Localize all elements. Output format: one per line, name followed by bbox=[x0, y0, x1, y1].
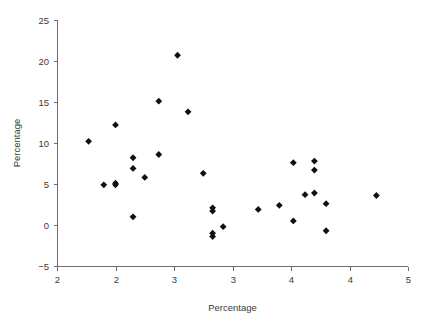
x-tick-label: 2 bbox=[114, 274, 119, 285]
y-tick-label: 15 bbox=[38, 97, 49, 108]
data-point-marker bbox=[220, 223, 227, 230]
y-tick-label: 0 bbox=[44, 220, 49, 231]
x-tick-label: 3 bbox=[231, 274, 236, 285]
data-point-marker bbox=[255, 206, 262, 213]
data-point-marker bbox=[130, 154, 137, 161]
data-point-marker bbox=[373, 192, 380, 199]
x-tick-label: 4 bbox=[289, 274, 294, 285]
data-point-marker bbox=[141, 174, 148, 181]
x-tick-label: 5 bbox=[406, 274, 411, 285]
data-point-marker bbox=[323, 200, 330, 207]
x-tick-label: 2 bbox=[55, 274, 60, 285]
y-tick-marks bbox=[54, 21, 58, 267]
x-tick-label: 3 bbox=[172, 274, 177, 285]
y-axis-title: Percentage bbox=[11, 119, 22, 168]
data-point-marker bbox=[276, 202, 283, 209]
data-points-layer bbox=[85, 52, 380, 240]
data-point-marker bbox=[311, 190, 318, 197]
data-point-marker bbox=[174, 52, 181, 59]
data-point-marker bbox=[130, 213, 137, 220]
data-point-marker bbox=[311, 167, 318, 174]
x-axis-title: Percentage bbox=[208, 302, 257, 313]
data-point-marker bbox=[100, 181, 107, 188]
data-point-marker bbox=[302, 191, 309, 198]
y-axis-group: −50510152025 bbox=[38, 15, 57, 272]
data-point-marker bbox=[155, 151, 162, 158]
y-tick-label: 20 bbox=[38, 56, 49, 67]
data-point-marker bbox=[290, 159, 297, 166]
y-tick-label: 5 bbox=[44, 179, 49, 190]
data-point-marker bbox=[311, 158, 318, 165]
data-point-marker bbox=[85, 138, 92, 145]
x-tick-marks bbox=[58, 267, 409, 271]
data-point-marker bbox=[155, 98, 162, 105]
y-tick-labels: −50510152025 bbox=[38, 15, 49, 272]
data-point-marker bbox=[130, 165, 137, 172]
x-tick-labels: 2233445 bbox=[55, 274, 411, 285]
data-point-marker bbox=[323, 227, 330, 234]
data-point-marker bbox=[112, 122, 119, 129]
x-axis-group: 2233445 bbox=[55, 267, 411, 286]
chart-canvas: −50510152025 2233445 Percentage Percenta… bbox=[0, 0, 423, 328]
scatter-plot-figure: −50510152025 2233445 Percentage Percenta… bbox=[0, 0, 423, 328]
data-point-marker bbox=[200, 170, 207, 177]
y-tick-label: 25 bbox=[38, 15, 49, 26]
data-point-marker bbox=[290, 218, 297, 225]
y-tick-label: 10 bbox=[38, 138, 49, 149]
x-tick-label: 4 bbox=[348, 274, 353, 285]
data-point-marker bbox=[185, 108, 192, 115]
y-tick-label: −5 bbox=[38, 261, 49, 272]
